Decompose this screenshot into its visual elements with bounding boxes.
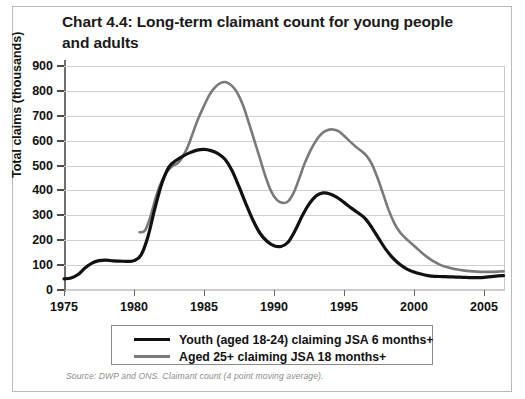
legend: Youth (aged 18-24) claiming JSA 6 months… (111, 325, 433, 365)
y-tick (57, 115, 64, 117)
legend-item-youth: Youth (aged 18-24) claiming JSA 6 months… (112, 331, 432, 348)
x-tick-label: 1990 (260, 300, 288, 314)
source-note: Source: DWP and ONS. Claimant count (4 p… (66, 371, 324, 381)
legend-swatch-adults-icon (134, 355, 170, 358)
chart-page: Chart 4.4: Long-term claimant count for … (0, 0, 525, 399)
legend-label-adults: Aged 25+ claiming JSA 18 months+ (179, 350, 386, 364)
x-tick-label: 1995 (330, 300, 358, 314)
y-tick-label: 200 (32, 233, 53, 247)
y-tick-label: 100 (32, 258, 53, 272)
y-tick-label: 800 (32, 84, 53, 98)
x-tick-label: 1975 (50, 300, 78, 314)
legend-label-youth: Youth (aged 18-24) claiming JSA 6 months… (179, 333, 434, 347)
x-tick (204, 290, 205, 296)
y-tick (57, 239, 64, 241)
y-tick (57, 289, 64, 291)
x-tick-label: 2000 (400, 300, 428, 314)
y-tick (57, 140, 64, 142)
y-tick-label: 700 (32, 109, 53, 123)
x-tick (134, 290, 135, 296)
y-tick-label: 500 (32, 159, 53, 173)
legend-swatch-youth-icon (134, 338, 170, 341)
x-tick (484, 290, 485, 296)
series-line-adults (140, 82, 504, 272)
y-tick (57, 90, 64, 92)
chart-title: Chart 4.4: Long-term claimant count for … (62, 12, 482, 53)
series-line-youth (64, 149, 504, 278)
y-tick (57, 165, 64, 167)
series-lines (64, 66, 505, 290)
y-tick (57, 65, 64, 67)
x-tick (274, 290, 275, 296)
y-tick (57, 189, 64, 191)
y-tick-label: 0 (46, 283, 53, 297)
y-tick-label: 600 (32, 134, 53, 148)
y-tick-label: 900 (32, 59, 53, 73)
x-tick-label: 1985 (190, 300, 218, 314)
y-tick (57, 214, 64, 216)
y-tick-label: 400 (32, 183, 53, 197)
y-tick-label: 300 (32, 208, 53, 222)
x-tick (64, 290, 65, 296)
plot-area: 0100200300400500600700800900 19751980198… (64, 66, 505, 290)
y-axis-title: Total claims (thousands) (10, 32, 24, 178)
y-tick (57, 264, 64, 266)
gridline (64, 290, 505, 291)
x-tick-label: 1980 (120, 300, 148, 314)
x-tick (344, 290, 345, 296)
legend-item-adults: Aged 25+ claiming JSA 18 months+ (112, 348, 432, 365)
x-tick-label: 2005 (470, 300, 498, 314)
x-tick (414, 290, 415, 296)
